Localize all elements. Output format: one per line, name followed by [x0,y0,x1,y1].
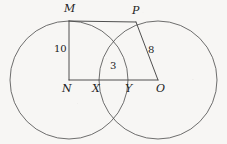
point-label-O: O [156,83,165,94]
measure-label-xy: 3 [110,61,116,71]
point-label-M: M [64,3,75,14]
point-label-Y: Y [125,83,132,94]
measure-label-po: 8 [148,45,154,55]
point-label-X: X [92,83,100,94]
geometry-figure: M P N X Y O 10 8 3 [0,0,227,144]
figure-canvas [0,0,227,144]
segment-PO [136,22,158,80]
point-label-N: N [62,83,72,94]
point-label-P: P [132,5,139,16]
measure-label-mn: 10 [54,44,67,54]
